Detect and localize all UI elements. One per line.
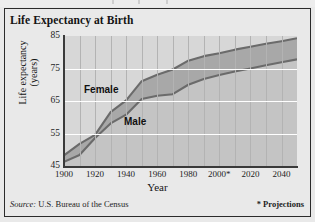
series-label-male: Male <box>124 116 146 127</box>
x-axis-title: Year <box>0 181 315 193</box>
x-axis-line <box>63 166 298 168</box>
y-axis-line <box>63 35 65 167</box>
source-note: Source: U.S. Bureau of the Census <box>10 199 128 209</box>
projections-note: * Projections <box>257 199 304 209</box>
series-label-female: Female <box>84 84 118 95</box>
y-tick-75: 75 <box>40 64 60 74</box>
x-tick-2040: 2040 <box>273 170 291 179</box>
plot-area <box>64 36 297 166</box>
x-tick-1980: 1980 <box>179 170 197 179</box>
y-tick-85: 85 <box>40 31 60 41</box>
horizontal-gridline-55 <box>64 134 297 135</box>
x-tick-1920: 1920 <box>86 170 104 179</box>
y-axis-title-line1: Life expectancy <box>17 40 28 104</box>
y-tick-55: 55 <box>40 129 60 139</box>
source-label: Source: <box>10 199 36 209</box>
source-value: U.S. Bureau of the Census <box>36 199 128 209</box>
y-tick-65: 65 <box>40 96 60 106</box>
figure-container: Life Expectancy at Birth Life expectancy… <box>0 0 315 222</box>
horizontal-gridline-65 <box>64 101 297 102</box>
x-tick-1960: 1960 <box>148 170 166 179</box>
horizontal-gridline-75 <box>64 69 297 70</box>
x-tick-2000: 2000* <box>208 170 231 179</box>
x-tick-1900: 1900 <box>55 170 73 179</box>
x-tick-1940: 1940 <box>117 170 135 179</box>
x-tick-2020: 2020 <box>241 170 259 179</box>
y-axis-title: Life expectancy (years) <box>18 13 39 133</box>
y-axis-title-line2: (years) <box>28 13 39 133</box>
